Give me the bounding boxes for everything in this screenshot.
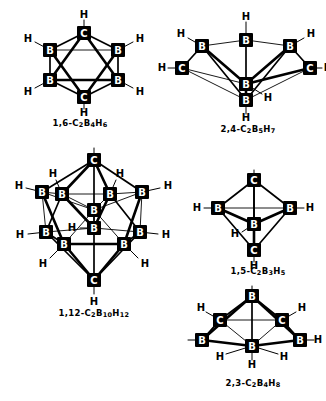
- svg-text:B: B: [38, 187, 46, 198]
- cage-bonds-c2b4h6: [50, 33, 118, 97]
- svg-text:B: B: [58, 189, 66, 200]
- hydrogen-label: H: [141, 258, 149, 269]
- svg-text:B: B: [46, 45, 54, 56]
- vertex-carbon-apex: C: [77, 26, 91, 40]
- caption-c2b5h7: 2,4-C2B5H7: [170, 124, 326, 135]
- hydrogen-label: H: [193, 202, 201, 213]
- hydrogen-label: H: [80, 9, 88, 20]
- vertex-boron: B: [111, 43, 125, 57]
- svg-text:B: B: [198, 335, 206, 346]
- hydrogen-label: H: [136, 86, 144, 97]
- svg-text:B: B: [242, 79, 250, 90]
- vertex-boron: B: [111, 73, 125, 87]
- structure-c2b4h8: B C C B B B H H H H H H: [186, 288, 320, 374]
- svg-text:C: C: [306, 63, 313, 74]
- svg-text:B: B: [60, 239, 68, 250]
- hydrogen-label: H: [242, 11, 250, 22]
- vertex-boron: B: [35, 185, 49, 199]
- hydrogen-label: H: [306, 202, 314, 213]
- svg-text:B: B: [248, 341, 256, 352]
- svg-text:B: B: [120, 239, 128, 250]
- vertex-carbon-apex-top: C: [247, 173, 261, 187]
- hydrogen-label: H: [158, 62, 166, 73]
- svg-text:C: C: [250, 245, 257, 256]
- svg-text:C: C: [216, 315, 223, 326]
- carborane-figure: C C B B B B H H H H H H 1,6-C2B4H6: [0, 0, 326, 401]
- hydrogen-label: H: [15, 180, 23, 191]
- vertex-boron: B: [57, 237, 71, 251]
- svg-text:C: C: [178, 63, 185, 74]
- vertex-boron: B: [195, 39, 209, 53]
- svg-text:B: B: [138, 187, 146, 198]
- caption-c2b3h5: 1,5-C2B3H5: [198, 266, 318, 277]
- svg-text:C: C: [80, 92, 87, 103]
- vertex-carbon: C: [275, 313, 289, 327]
- svg-text:B: B: [114, 75, 122, 86]
- vertex-boron-apex-bottom: B: [239, 93, 253, 107]
- hydrogen-label: H: [298, 302, 306, 313]
- svg-text:B: B: [90, 205, 98, 216]
- hydrogen-label: H: [264, 92, 272, 103]
- hydrogen-label: H: [242, 112, 250, 123]
- hydrogen-label: H: [216, 351, 224, 362]
- structure-c2b4h6: C C B B B B H H H H H H: [14, 8, 146, 116]
- vertex-boron: B: [211, 201, 225, 215]
- vertex-carbon-apex-bottom: C: [87, 273, 101, 287]
- svg-text:B: B: [242, 95, 250, 106]
- svg-text:B: B: [42, 227, 50, 238]
- vertex-boron: B: [103, 187, 117, 201]
- vertex-boron: B: [87, 203, 101, 217]
- caption-c2b10h12: 1,12-C2B10H12: [8, 308, 180, 319]
- svg-text:C: C: [90, 275, 97, 286]
- svg-text:C: C: [278, 315, 285, 326]
- svg-text:B: B: [214, 203, 222, 214]
- svg-text:B: B: [114, 45, 122, 56]
- svg-text:B: B: [242, 35, 250, 46]
- hydrogen-label: H: [136, 33, 144, 44]
- hydrogen-label: H: [68, 222, 76, 233]
- hydrogen-label: H: [314, 334, 322, 345]
- caption-c2b4h8: 2,3-C2B4H8: [190, 378, 316, 389]
- hydrogen-label: H: [164, 180, 172, 191]
- hydrogen-label: H: [24, 33, 32, 44]
- svg-text:B: B: [250, 219, 258, 230]
- vertex-boron: B: [43, 43, 57, 57]
- svg-text:B: B: [286, 203, 294, 214]
- hydrogen-label: H: [280, 351, 288, 362]
- vertex-carbon: C: [213, 313, 227, 327]
- svg-text:B: B: [136, 227, 144, 238]
- vertex-boron-apex: B: [245, 289, 259, 303]
- svg-text:B: B: [90, 223, 98, 234]
- cage-bonds-c2b3h5: [218, 180, 290, 250]
- caption-c2b4h6: 1,6-C2B4H6: [0, 118, 160, 129]
- vertex-boron: B: [239, 77, 253, 91]
- vertex-boron: B: [39, 225, 53, 239]
- hydrogen-label: H: [162, 229, 170, 240]
- vertex-boron: B: [245, 339, 259, 353]
- svg-text:C: C: [90, 155, 97, 166]
- structure-c2b5h7: B B B B C C B H H H H H H H: [168, 6, 324, 122]
- svg-text:B: B: [106, 189, 114, 200]
- vertex-boron: B: [283, 39, 297, 53]
- svg-text:B: B: [286, 41, 294, 52]
- svg-text:C: C: [250, 175, 257, 186]
- hydrogen-label: H: [90, 296, 98, 307]
- structure-c2b10h12: C C B B B B B B: [6, 146, 182, 306]
- vertex-carbon: C: [303, 61, 317, 75]
- vertex-boron: B: [247, 217, 261, 231]
- svg-text:C: C: [80, 28, 87, 39]
- vertex-boron: B: [117, 237, 131, 251]
- vertex-carbon-apex-bottom: C: [247, 243, 261, 257]
- hydrogen-label: H: [307, 28, 315, 39]
- vertex-carbon-apex-top: C: [87, 153, 101, 167]
- hydrogen-label: H: [177, 28, 185, 39]
- svg-text:B: B: [248, 291, 256, 302]
- vertex-boron: B: [283, 201, 297, 215]
- vertex-boron: B: [55, 187, 69, 201]
- hydrogen-label: H: [80, 107, 88, 118]
- hydrogen-label: H: [248, 359, 256, 370]
- hydrogen-label: H: [49, 168, 57, 179]
- hydrogen-label: H: [24, 86, 32, 97]
- svg-text:B: B: [46, 75, 54, 86]
- hydrogen-label: H: [197, 302, 205, 313]
